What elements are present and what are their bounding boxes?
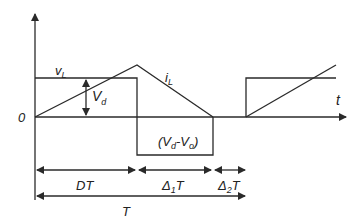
neg-voltage-label: (Vd-Vo) — [158, 134, 198, 151]
delta1t-main: Δ — [161, 178, 171, 193]
vl-label-sub: L — [62, 70, 67, 80]
delta2t-main: Δ — [217, 178, 227, 193]
waveform-diagram: 0 t vL iL Vd (Vd-Vo) DT Δ1T Δ2T T — [0, 0, 364, 224]
origin-label: 0 — [18, 110, 26, 125]
il-waveform-next — [246, 65, 336, 117]
period-label: T — [122, 204, 131, 219]
delta1t-label: Δ1T — [161, 178, 185, 195]
t-axis-label: t — [336, 92, 341, 108]
dt-label: DT — [76, 178, 94, 193]
vd-label: Vd — [92, 88, 107, 107]
delta2t-tail: T — [232, 178, 241, 193]
delta1t-tail: T — [176, 178, 185, 193]
vl-waveform-next — [246, 78, 336, 117]
vl-label: vL — [55, 63, 67, 80]
delta2t-label: Δ2T — [217, 178, 241, 195]
il-label-sub: L — [168, 77, 173, 87]
il-label: iL — [165, 70, 173, 87]
vd-label-sub: d — [101, 97, 107, 107]
